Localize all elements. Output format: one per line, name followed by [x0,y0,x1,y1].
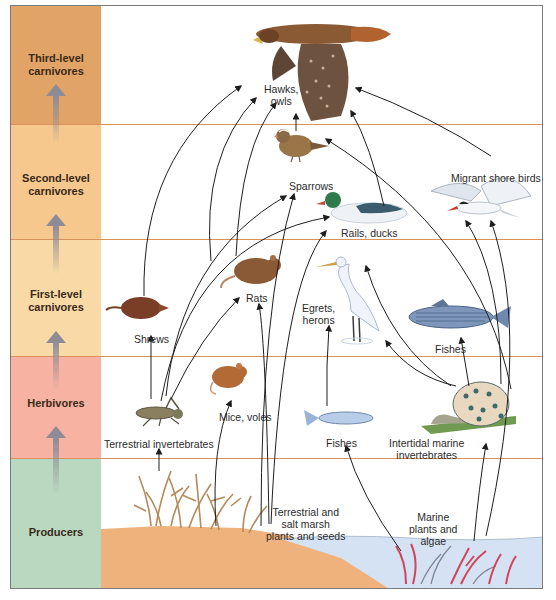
shrew-illustration [106,297,169,319]
small-fish-illustration [304,410,373,426]
label-rails-ducks: Rails, ducks [341,227,398,239]
mouse-illustration [211,363,247,394]
label-marine-plants-algae: Marine plants and algae [409,511,457,547]
label-migrant-shore-birds: Migrant shore birds [451,172,541,184]
label-intertidal-marine-invertebrates: Intertidal marine invertebrates [389,437,464,461]
egret-illustration [316,257,379,344]
label-mice-voles: Mice, voles [219,411,272,423]
label-terrestrial-salt-marsh-plants: Terrestrial and salt marsh plants and se… [266,506,345,542]
label-sparrows: Sparrows [289,180,333,192]
label-fishes-small: Fishes [326,437,357,449]
rat-illustration [221,255,281,288]
sparrow-illustration [274,129,329,162]
striped-bass-illustration [409,299,511,328]
snail-illustration [421,382,516,434]
grasshopper-illustration [136,398,183,426]
label-terrestrial-invertebrates: Terrestrial invertebrates [104,438,214,450]
marsh-grass-icon [134,471,267,533]
label-rats: Rats [246,292,268,304]
tern-illustration [431,178,531,218]
label-fishes-large: Fishes [435,343,466,355]
label-hawks-owls: Hawks, owls [264,83,298,107]
food-web-diagram: Third-level carnivores Second-level carn… [10,5,543,589]
label-egrets-herons: Egrets, herons [302,302,335,326]
label-shrews: Shrews [134,333,169,345]
duck-illustration [316,192,407,223]
